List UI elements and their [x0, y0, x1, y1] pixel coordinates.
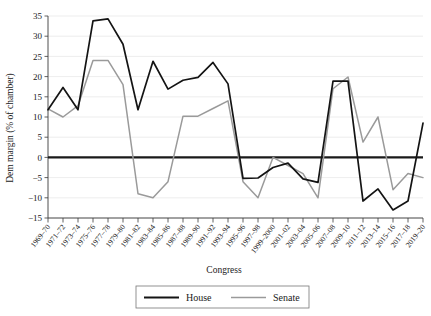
- house-series-line: [48, 19, 423, 210]
- y-tick-labels-group: 35302520151050−5−10−15: [28, 11, 43, 223]
- y-tick-label: 30: [33, 31, 43, 41]
- chart-legend: House Senate: [136, 286, 309, 308]
- y-tick-label: 5: [38, 132, 43, 142]
- y-tick-label: 20: [33, 72, 43, 82]
- chart-container: 35302520151050−5−10−15 1969–701971–72197…: [0, 0, 431, 316]
- y-tick-label: −10: [28, 193, 43, 203]
- gridlines-group: [48, 16, 423, 218]
- x-tick-marks-group: [48, 218, 423, 223]
- y-axis-title: Dem margin (% of chamber): [5, 73, 16, 183]
- legend-label-house: House: [186, 292, 212, 303]
- y-tick-label: 35: [33, 11, 43, 21]
- y-tick-label: −5: [32, 173, 42, 183]
- y-tick-label: −15: [28, 213, 43, 223]
- legend-label-senate: Senate: [273, 292, 300, 303]
- y-tick-marks-group: [45, 16, 49, 218]
- x-tick-labels-group: 1969–701971–721973–741975–761977–781979–…: [29, 223, 428, 256]
- dem-margin-line-chart: 35302520151050−5−10−15 1969–701971–72197…: [0, 0, 431, 316]
- y-tick-label: 15: [33, 92, 43, 102]
- y-tick-label: 0: [38, 153, 43, 163]
- y-tick-label: 10: [33, 112, 43, 122]
- y-tick-label: 25: [33, 52, 43, 62]
- x-axis-title: Congress: [206, 265, 242, 275]
